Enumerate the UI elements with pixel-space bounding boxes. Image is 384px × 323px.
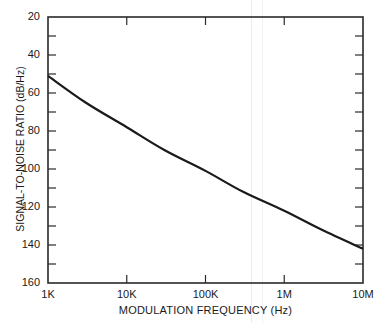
y-axis-title: SIGNAL-TO-NOISE RATIO (dB/Hz) <box>14 34 26 264</box>
y-tick-label: 160 <box>4 276 40 288</box>
x-tick-label: 1K <box>28 288 68 300</box>
x-tick-label: 10M <box>343 288 383 300</box>
plot-frame <box>48 17 363 283</box>
x-tick-label: 100K <box>186 288 226 300</box>
snr-chart: 20406080100120140160 1K10K100K1M10M MODU… <box>0 0 384 323</box>
axis-ticks <box>48 17 363 283</box>
x-tick-label: 10K <box>107 288 147 300</box>
snr-curve <box>48 76 363 249</box>
x-axis-title: MODULATION FREQUENCY (Hz) <box>48 304 363 316</box>
plot-area <box>0 0 384 323</box>
x-tick-label: 1M <box>264 288 304 300</box>
y-tick-label: 20 <box>4 10 40 22</box>
